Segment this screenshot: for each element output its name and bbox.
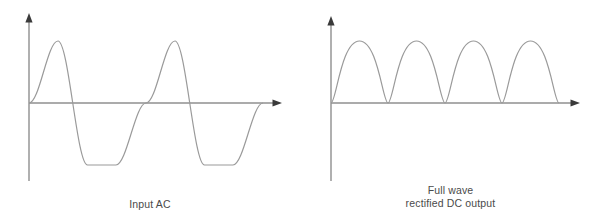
rectified-dc-plot xyxy=(300,0,601,190)
panel-rectified-dc: Full wave rectified DC output xyxy=(300,0,601,220)
waveform-diagram: Input AC Full wave rectified DC output xyxy=(0,0,601,220)
rectified-dc-hump-curve xyxy=(331,41,559,103)
x-axis-arrowhead-icon xyxy=(571,99,581,106)
caption-rectified-dc: Full wave rectified DC output xyxy=(300,184,601,210)
caption-line-1: Full wave xyxy=(300,184,601,197)
input-ac-plot xyxy=(0,0,300,190)
panel-input-ac: Input AC xyxy=(0,0,300,220)
x-axis-arrowhead-icon xyxy=(273,99,283,106)
y-axis-arrowhead-icon xyxy=(25,13,32,23)
caption-input-ac: Input AC xyxy=(0,198,300,211)
caption-line-1: Input AC xyxy=(0,198,300,211)
y-axis-arrowhead-icon xyxy=(327,16,334,26)
caption-line-2: rectified DC output xyxy=(300,197,601,210)
